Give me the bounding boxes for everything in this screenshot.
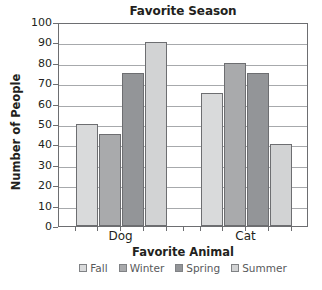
legend-swatch-icon	[175, 264, 183, 272]
x-axis-category-cat: Cat	[235, 229, 255, 243]
y-axis-tick-label: 60	[6, 98, 52, 111]
x-axis-category-dog: Dog	[108, 229, 132, 243]
bar-cat-summer	[270, 144, 292, 226]
y-axis-tick-label: 90	[6, 36, 52, 49]
x-axis-category-labels: DogCat	[58, 229, 308, 245]
legend-swatch-icon	[79, 264, 87, 272]
y-axis-tick-label: 100	[6, 16, 52, 29]
bars-layer	[59, 24, 307, 226]
bar-dog-fall	[76, 124, 98, 226]
bar-chart-figure: Favorite Season Number of People 0102030…	[0, 0, 322, 290]
y-axis-tick-label: 10	[6, 200, 52, 213]
y-axis-tick-label: 30	[6, 159, 52, 172]
legend-label: Winter	[130, 262, 165, 274]
legend-item-fall[interactable]: Fall	[79, 262, 107, 274]
bar-cat-fall	[201, 93, 223, 226]
legend-label: Summer	[242, 262, 287, 274]
y-axis-tick-label: 20	[6, 179, 52, 192]
x-axis-title: Favorite Animal	[58, 245, 308, 259]
bar-dog-summer	[145, 42, 167, 226]
legend-label: Spring	[186, 262, 220, 274]
y-axis-tick-label: 70	[6, 77, 52, 90]
bar-dog-winter	[99, 134, 121, 226]
y-axis-tick-label: 80	[6, 57, 52, 70]
y-axis-tick-labels: 0102030405060708090100	[6, 23, 52, 227]
legend-item-spring[interactable]: Spring	[175, 262, 220, 274]
legend-swatch-icon	[119, 264, 127, 272]
bar-dog-spring	[122, 73, 144, 226]
y-axis-tick-label: 40	[6, 138, 52, 151]
y-axis-tick-label: 50	[6, 118, 52, 131]
y-axis-tick-label: 0	[6, 220, 52, 233]
chart-legend: FallWinterSpringSummer	[58, 262, 308, 274]
plot-area	[58, 23, 308, 227]
chart-title: Favorite Season	[58, 4, 308, 18]
bar-cat-winter	[224, 63, 246, 226]
legend-item-winter[interactable]: Winter	[119, 262, 165, 274]
legend-label: Fall	[90, 262, 107, 274]
bar-cat-spring	[247, 73, 269, 226]
legend-item-summer[interactable]: Summer	[231, 262, 287, 274]
legend-swatch-icon	[231, 264, 239, 272]
